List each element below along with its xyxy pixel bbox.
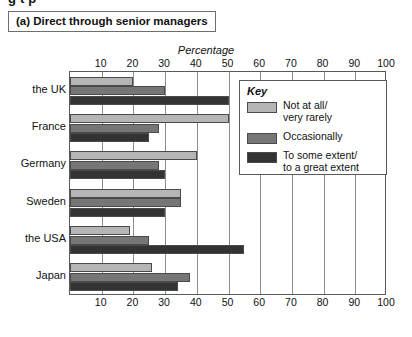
x-axis-ticks-bottom: 102030405060708090100: [69, 296, 386, 308]
legend-box: Key Not at all/ very rarelyOccasionallyT…: [239, 80, 387, 175]
x-tick-label: 90: [348, 57, 360, 69]
x-tick-label: 70: [285, 57, 297, 69]
x-tick-label: 100: [377, 296, 395, 308]
x-tick-label: 10: [95, 296, 107, 308]
bar: [70, 198, 181, 207]
category-labels: the UKFranceGermanySwedenthe USAJapan: [0, 71, 66, 295]
bar: [70, 245, 244, 254]
x-tick-label: 50: [222, 296, 234, 308]
bar-chart: Percentage 102030405060708090100 the UKF…: [0, 0, 412, 337]
bar: [70, 133, 149, 142]
legend-item: To some extent/ to a great extent: [247, 150, 359, 173]
bar: [70, 77, 133, 86]
bar: [70, 189, 181, 198]
bar-group: [70, 263, 385, 291]
x-tick-label: 80: [317, 296, 329, 308]
x-tick-label: 10: [95, 57, 107, 69]
bar: [70, 96, 229, 105]
category-label: the USA: [0, 232, 66, 244]
x-tick-label: 40: [190, 296, 202, 308]
x-tick-label: 80: [317, 57, 329, 69]
bar: [70, 263, 152, 272]
x-tick-label: 50: [222, 57, 234, 69]
bar: [70, 114, 229, 123]
x-tick-label: 60: [253, 57, 265, 69]
bar: [70, 226, 130, 235]
bar: [70, 151, 197, 160]
bar: [70, 161, 159, 170]
legend-item: Not at all/ very rarely: [247, 100, 332, 123]
legend-label: To some extent/ to a great extent: [283, 150, 359, 173]
x-tick-label: 30: [158, 296, 170, 308]
bar: [70, 208, 165, 217]
bar: [70, 170, 165, 179]
legend-title: Key: [247, 85, 267, 97]
x-tick-label: 70: [285, 296, 297, 308]
x-tick-label: 20: [127, 296, 139, 308]
bar-group: [70, 226, 385, 254]
legend-label: Occasionally: [283, 131, 343, 143]
legend-swatch: [247, 102, 277, 113]
legend-item: Occasionally: [247, 131, 343, 144]
category-label: the UK: [0, 83, 66, 95]
bar: [70, 236, 149, 245]
x-tick-label: 20: [127, 57, 139, 69]
axis-title: Percentage: [0, 44, 412, 56]
x-axis-ticks-top: 102030405060708090100: [69, 57, 386, 69]
category-label: Germany: [0, 157, 66, 169]
legend-swatch: [247, 152, 277, 163]
category-label: France: [0, 120, 66, 132]
bar: [70, 273, 190, 282]
x-tick-label: 60: [253, 296, 265, 308]
legend-label: Not at all/ very rarely: [283, 100, 332, 123]
category-label: Sweden: [0, 195, 66, 207]
x-tick-label: 90: [348, 296, 360, 308]
bar: [70, 282, 178, 291]
bar: [70, 86, 165, 95]
category-label: Japan: [0, 269, 66, 281]
bar: [70, 124, 159, 133]
x-tick-label: 30: [158, 57, 170, 69]
x-tick-label: 40: [190, 57, 202, 69]
x-tick-label: 100: [377, 57, 395, 69]
bar-group: [70, 189, 385, 217]
legend-swatch: [247, 133, 277, 144]
